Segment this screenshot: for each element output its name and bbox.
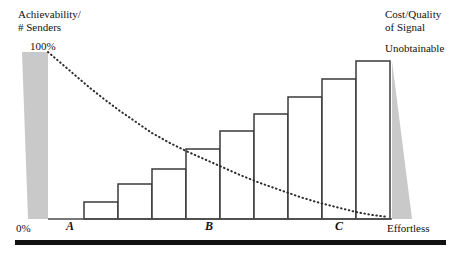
bars-group xyxy=(84,61,390,219)
unobtainable-wedge xyxy=(392,61,412,219)
y-axis-left-line2: # Senders xyxy=(18,21,61,33)
signalling-cost-chart: Achievability/# Senders 100% Cost/Qualit… xyxy=(0,0,461,255)
bar-9 xyxy=(356,61,390,219)
y-axis-max-label: 100% xyxy=(30,40,56,53)
bar-5 xyxy=(220,131,254,219)
bar-2 xyxy=(118,184,152,219)
effortless-label: Effortless xyxy=(387,222,430,235)
ground-bar xyxy=(15,240,446,245)
y-axis-min-label: 0% xyxy=(16,222,31,235)
y-axis-right-line1: Cost/Quality xyxy=(385,8,441,20)
bar-7 xyxy=(288,97,322,219)
y-axis-left-line1: Achievability/ xyxy=(18,8,81,20)
bar-1 xyxy=(84,202,118,219)
bar-6 xyxy=(254,114,288,219)
y-axis-right-line2: of Signal xyxy=(385,21,425,33)
x-tick-label-c: C xyxy=(335,220,343,233)
bar-4 xyxy=(186,149,220,219)
achievability-wedge xyxy=(22,52,48,219)
y-axis-right-label: Cost/Qualityof Signal xyxy=(385,8,441,34)
x-tick-label-b: B xyxy=(205,220,213,233)
chart-canvas xyxy=(0,0,461,255)
x-tick-label-a: A xyxy=(66,220,74,233)
y-axis-left-label: Achievability/# Senders xyxy=(18,8,81,34)
bar-8 xyxy=(322,79,356,219)
bar-3 xyxy=(152,169,186,219)
unobtainable-label: Unobtainable xyxy=(385,42,444,55)
